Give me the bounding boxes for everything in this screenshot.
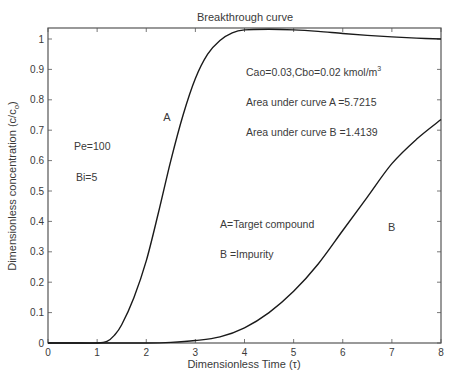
annotation-conc-sup: 3 (377, 65, 381, 72)
y-tick-label: 0.8 (30, 94, 44, 105)
chart-title: Breakthrough curve (197, 11, 293, 23)
x-tick-label: 8 (438, 347, 444, 358)
annotation-area-b: Area under curve B =1.4139 (246, 126, 378, 138)
curve-label-a: A (163, 111, 171, 123)
x-tick-label: 6 (340, 347, 346, 358)
x-tick-label: 4 (242, 347, 248, 358)
y-axis-label-main: Dimensionless concentration (c/c (6, 109, 18, 271)
annotation-bi: Bi=5 (76, 171, 97, 183)
x-axis-label: Dimensionless Time (τ) (187, 358, 300, 370)
x-tick-label: 2 (143, 347, 149, 358)
annotation-conc-text: Cao=0.03,Cbo=0.02 kmol/m (246, 66, 378, 78)
x-tick-label: 1 (94, 347, 100, 358)
y-tick-label: 0.7 (30, 125, 44, 136)
y-tick-label: 0.4 (30, 216, 44, 227)
x-axis-ticks: 012345678 (45, 28, 444, 358)
y-axis-label: Dimensionless concentration (c/co) (6, 101, 21, 271)
annotation-concentrations: Cao=0.03,Cbo=0.02 kmol/m3 (246, 65, 381, 78)
legend-text-b: B =Impurity (220, 248, 274, 260)
annotation-pe: Pe=100 (74, 140, 111, 152)
breakthrough-chart: Breakthrough curve 012345678 00.10.20.30… (0, 0, 456, 376)
y-axis-label-close: ) (6, 101, 18, 105)
y-tick-label: 0.3 (30, 246, 44, 257)
x-tick-label: 5 (291, 347, 297, 358)
y-tick-label: 1 (38, 34, 44, 45)
y-tick-label: 0.2 (30, 277, 44, 288)
y-tick-label: 0.9 (30, 64, 44, 75)
curve-b-impurity (48, 120, 441, 343)
x-tick-label: 7 (389, 347, 395, 358)
curve-a-target-compound (48, 29, 441, 343)
y-tick-label: 0.5 (30, 186, 44, 197)
y-tick-label: 0.1 (30, 307, 44, 318)
legend-text-a: A=Target compound (220, 218, 314, 230)
y-tick-label: 0.6 (30, 155, 44, 166)
plot-frame (48, 28, 441, 343)
x-tick-label: 3 (193, 347, 199, 358)
curve-label-b: B (388, 221, 395, 233)
x-tick-label: 0 (45, 347, 51, 358)
y-axis-ticks: 00.10.20.30.40.50.60.70.80.91 (30, 34, 441, 349)
y-tick-label: 0 (38, 338, 44, 349)
annotation-area-a: Area under curve A =5.7215 (246, 96, 377, 108)
